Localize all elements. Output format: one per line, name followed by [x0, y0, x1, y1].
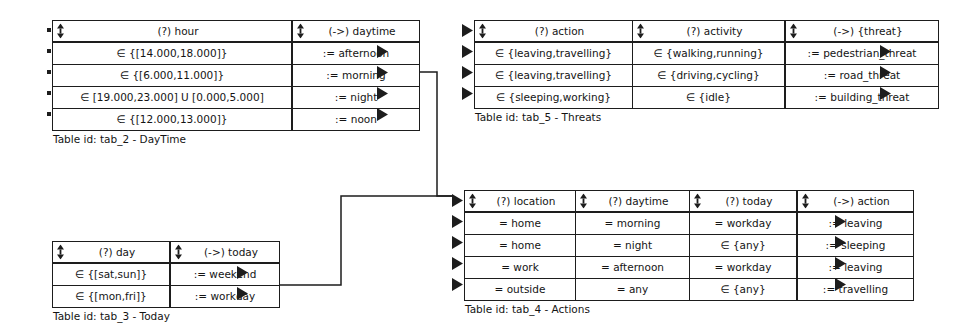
output-arrow-icon[interactable]	[880, 87, 891, 100]
cell-conclusion[interactable]: := building_threat	[785, 87, 939, 109]
cell-conclusion[interactable]: := travelling	[797, 279, 914, 301]
input-arrow-icon[interactable]	[462, 45, 473, 58]
sort-updown-icon[interactable]	[636, 24, 645, 39]
port-stub-icon[interactable]	[47, 49, 51, 53]
table-block-today[interactable]: (?) day (->) today ∈ {[sat,sun]} := week	[52, 241, 280, 323]
output-arrow-icon[interactable]	[880, 66, 891, 79]
column-header-hour[interactable]: (?) hour	[53, 21, 293, 43]
table-row[interactable]: ∈ {[12.000,13.000]} := noon	[53, 109, 420, 131]
cell-condition[interactable]: = night	[576, 235, 690, 257]
table-row[interactable]: ∈ {leaving,travelling} ∈ {driving,cyclin…	[475, 65, 939, 87]
output-arrow-icon[interactable]	[237, 287, 248, 300]
input-arrow-icon[interactable]	[452, 278, 463, 291]
cell-condition[interactable]: ∈ {leaving,travelling}	[475, 42, 633, 65]
column-header-activity[interactable]: (?) activity	[633, 21, 786, 43]
cell-condition[interactable]: ∈ {any}	[690, 279, 798, 301]
output-arrow-icon[interactable]	[377, 45, 388, 58]
column-header-day[interactable]: (?) day	[53, 242, 171, 264]
input-arrow-icon[interactable]	[462, 66, 473, 79]
table-row[interactable]: = work = afternoon = workday := leaving	[465, 257, 914, 279]
cell-condition[interactable]: ∈ {driving,cycling}	[633, 65, 786, 87]
column-header-today[interactable]: (?) today	[690, 191, 798, 213]
output-arrow-icon[interactable]	[835, 257, 846, 270]
sort-updown-icon[interactable]	[174, 245, 183, 260]
input-arrow-icon[interactable]	[452, 236, 463, 249]
input-arrow-icon[interactable]	[452, 257, 463, 270]
cell-conclusion[interactable]: := morning	[292, 65, 420, 87]
table-row[interactable]: ∈ {[14.000,18.000]} := afternoon	[53, 42, 420, 65]
output-arrow-icon[interactable]	[835, 215, 846, 228]
port-stub-icon[interactable]	[47, 28, 51, 32]
table-block-actions[interactable]: (?) location (?) daytime	[464, 190, 914, 316]
sort-updown-icon[interactable]	[468, 194, 477, 209]
output-arrow-icon[interactable]	[237, 266, 248, 279]
table-row[interactable]: ∈ {leaving,travelling} ∈ {walking,runnin…	[475, 42, 939, 65]
cell-condition[interactable]: = outside	[465, 279, 576, 301]
cell-condition[interactable]: = work	[465, 257, 576, 279]
port-stub-icon[interactable]	[47, 70, 51, 74]
table-row[interactable]: = home = night ∈ {any} := sleeping	[465, 235, 914, 257]
cell-condition[interactable]: ∈ {[6.000,11.000]}	[53, 65, 293, 87]
output-arrow-icon[interactable]	[835, 278, 846, 291]
sort-updown-icon[interactable]	[56, 245, 65, 260]
cell-condition[interactable]: ∈ {sleeping,working}	[475, 87, 633, 109]
table-row[interactable]: ∈ {sleeping,working} ∈ {idle} := buildin…	[475, 87, 939, 109]
table-row[interactable]: ∈ [19.000,23.000] U [0.000,5.000] := nig…	[53, 87, 420, 109]
cell-condition[interactable]: ∈ {[sat,sun]}	[53, 263, 171, 286]
port-stub-icon[interactable]	[47, 91, 51, 95]
output-arrow-icon[interactable]	[377, 87, 388, 100]
cell-condition[interactable]: ∈ {[14.000,18.000]}	[53, 42, 293, 65]
cell-condition[interactable]: = home	[465, 212, 576, 235]
sort-updown-icon[interactable]	[801, 194, 810, 209]
table-row[interactable]: = outside = any ∈ {any} := travelling	[465, 279, 914, 301]
cell-conclusion[interactable]: := leaving	[797, 212, 914, 235]
input-arrow-icon[interactable]	[462, 24, 473, 37]
cell-condition[interactable]: ∈ {leaving,travelling}	[475, 65, 633, 87]
table-threats[interactable]: (?) action (?) activity	[474, 20, 939, 109]
cell-conclusion[interactable]: := afternoon	[292, 42, 420, 65]
sort-updown-icon[interactable]	[789, 24, 798, 39]
cell-condition[interactable]: = home	[465, 235, 576, 257]
sort-updown-icon[interactable]	[296, 24, 305, 39]
output-arrow-icon[interactable]	[377, 108, 388, 121]
cell-conclusion[interactable]: := leaving	[797, 257, 914, 279]
cell-condition[interactable]: ∈ [19.000,23.000] U [0.000,5.000]	[53, 87, 293, 109]
cell-condition[interactable]: ∈ {any}	[690, 235, 798, 257]
sort-updown-icon[interactable]	[478, 24, 487, 39]
column-header-daytime[interactable]: (?) daytime	[576, 191, 690, 213]
input-arrow-icon[interactable]	[452, 215, 463, 228]
port-stub-icon[interactable]	[47, 112, 51, 116]
column-header-action[interactable]: (?) action	[475, 21, 633, 43]
cell-condition[interactable]: = workday	[690, 212, 798, 235]
cell-condition[interactable]: ∈ {walking,running}	[633, 42, 786, 65]
input-arrow-icon[interactable]	[462, 87, 473, 100]
cell-conclusion[interactable]: := sleeping	[797, 235, 914, 257]
input-arrow-icon[interactable]	[452, 194, 463, 207]
column-header-daytime[interactable]: (->) daytime	[292, 21, 420, 43]
cell-conclusion[interactable]: := noon	[292, 109, 420, 131]
cell-condition[interactable]: ∈ {idle}	[633, 87, 786, 109]
table-daytime[interactable]: (?) hour (->) daytime ∈ {[14.000,18.000]…	[52, 20, 420, 131]
cell-conclusion[interactable]: := road_threat	[785, 65, 939, 87]
cell-condition[interactable]: = afternoon	[576, 257, 690, 279]
cell-condition[interactable]: = any	[576, 279, 690, 301]
column-header-location[interactable]: (?) location	[465, 191, 576, 213]
output-arrow-icon[interactable]	[835, 236, 846, 249]
table-block-threats[interactable]: (?) action (?) activity	[474, 20, 939, 124]
table-row[interactable]: ∈ {[6.000,11.000]} := morning	[53, 65, 420, 87]
cell-conclusion[interactable]: := night	[292, 87, 420, 109]
cell-condition[interactable]: = morning	[576, 212, 690, 235]
cell-condition[interactable]: ∈ {[mon,fri]}	[53, 286, 171, 308]
sort-updown-icon[interactable]	[693, 194, 702, 209]
cell-condition[interactable]: = workday	[690, 257, 798, 279]
column-header-threat[interactable]: (->) {threat}	[785, 21, 939, 43]
column-header-today[interactable]: (->) today	[170, 242, 280, 264]
sort-updown-icon[interactable]	[56, 24, 65, 39]
sort-updown-icon[interactable]	[579, 194, 588, 209]
output-arrow-icon[interactable]	[377, 66, 388, 79]
cell-condition[interactable]: ∈ {[12.000,13.000]}	[53, 109, 293, 131]
table-actions[interactable]: (?) location (?) daytime	[464, 190, 914, 301]
cell-conclusion[interactable]: := weekend	[170, 263, 280, 286]
column-header-action[interactable]: (->) action	[797, 191, 914, 213]
cell-conclusion[interactable]: := workday	[170, 286, 280, 308]
